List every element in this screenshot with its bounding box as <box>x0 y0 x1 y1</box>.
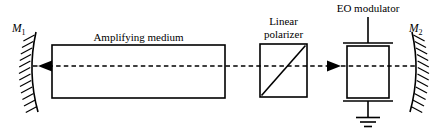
mirror-m1-hatching <box>19 35 37 113</box>
mirror-m1-label: M1 <box>11 22 26 37</box>
amplifying-medium-group: Amplifying medium <box>52 31 225 98</box>
arrow-right-icon <box>327 61 341 72</box>
amplifying-medium-box <box>52 45 225 98</box>
eo-modulator-group: EO modulator <box>337 2 400 127</box>
mirror-m1-group: M1 <box>11 22 38 113</box>
laser-cavity-diagram: M1 Amplifying medium Linear polarizer <box>0 0 435 133</box>
linear-polarizer-diagonal <box>262 46 306 96</box>
eo-modulator-label: EO modulator <box>337 2 400 14</box>
mirror-m2-label: M2 <box>408 22 423 37</box>
mirror-m2-group: M2 <box>408 22 429 113</box>
linear-polarizer-label-line2: polarizer <box>264 28 303 40</box>
linear-polarizer-label-line1: Linear <box>269 15 298 27</box>
diagram-canvas: M1 Amplifying medium Linear polarizer <box>0 0 435 133</box>
amplifying-medium-label: Amplifying medium <box>93 31 184 43</box>
eo-modulator-crystal-box <box>347 46 389 98</box>
ground-symbol-icon <box>356 118 380 127</box>
mirror-m2-hatching <box>411 35 429 113</box>
linear-polarizer-group: Linear polarizer <box>260 15 307 97</box>
arrow-left-icon <box>38 61 52 72</box>
